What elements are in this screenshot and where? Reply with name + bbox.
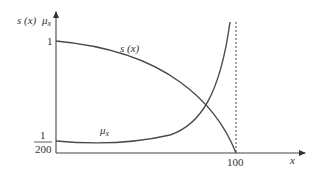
survival-curve xyxy=(56,41,236,153)
survival-mortality-chart: s (x) μx 1 1 200 100 x s (x) μx xyxy=(0,0,315,176)
y-tick-frac-denominator: 200 xyxy=(35,143,52,155)
y-axis-label-mu: μx xyxy=(41,14,52,28)
y-tick-1: 1 xyxy=(47,35,53,47)
mortality-curve xyxy=(56,22,230,143)
y-tick-frac-numerator: 1 xyxy=(40,129,46,141)
curve-label-mu: μx xyxy=(99,124,110,138)
x-tick-100: 100 xyxy=(227,156,244,168)
curve-label-s: s (x) xyxy=(120,42,140,55)
y-axis-label-s: s (x) xyxy=(17,14,37,27)
x-axis-label: x xyxy=(289,154,295,166)
